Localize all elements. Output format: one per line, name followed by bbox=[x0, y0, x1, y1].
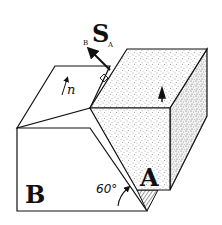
block-a-label: A bbox=[139, 163, 159, 192]
slip-vector-sub-b: B bbox=[83, 39, 88, 47]
slip-diagram: n S B A B A 60° bbox=[0, 0, 222, 225]
angle-label: 60° bbox=[96, 182, 117, 196]
slip-vector-sub-a: A bbox=[107, 41, 114, 49]
normal-label: n bbox=[67, 82, 75, 97]
slip-vector-label: S bbox=[92, 19, 109, 48]
block-b-label: B bbox=[25, 180, 45, 209]
